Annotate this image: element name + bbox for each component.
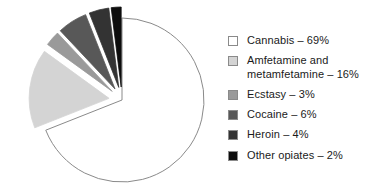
legend-swatch-heroin xyxy=(228,130,238,140)
legend-label-cocaine: Cocaine – 6% xyxy=(247,107,317,121)
pie-chart-figure: Cannabis – 69% Amfetamine and metamfetam… xyxy=(0,0,383,192)
pie-chart-svg xyxy=(0,0,225,192)
legend-label-cannabis: Cannabis – 69% xyxy=(247,33,329,47)
legend-item-amfetamine: Amfetamine and metamfetamine – 16% xyxy=(228,53,383,81)
chart-legend: Cannabis – 69% Amfetamine and metamfetam… xyxy=(228,33,383,168)
legend-label-amfetamine: Amfetamine and metamfetamine – 16% xyxy=(247,53,359,81)
legend-swatch-cocaine xyxy=(228,110,238,120)
legend-swatch-other-opiates xyxy=(228,151,238,161)
pie-slice-group xyxy=(29,7,204,182)
legend-swatch-amfetamine xyxy=(228,56,238,66)
legend-label-heroin: Heroin – 4% xyxy=(247,127,309,141)
legend-item-cocaine: Cocaine – 6% xyxy=(228,107,383,121)
legend-item-cannabis: Cannabis – 69% xyxy=(228,33,383,47)
pie-chart-plot-area xyxy=(0,0,225,192)
legend-item-heroin: Heroin – 4% xyxy=(228,127,383,141)
legend-label-other-opiates: Other opiates – 2% xyxy=(247,148,343,162)
legend-swatch-ecstasy xyxy=(228,90,238,100)
legend-swatch-cannabis xyxy=(228,36,238,46)
legend-item-other-opiates: Other opiates – 2% xyxy=(228,148,383,162)
legend-label-ecstasy: Ecstasy – 3% xyxy=(247,87,315,101)
legend-item-ecstasy: Ecstasy – 3% xyxy=(228,87,383,101)
